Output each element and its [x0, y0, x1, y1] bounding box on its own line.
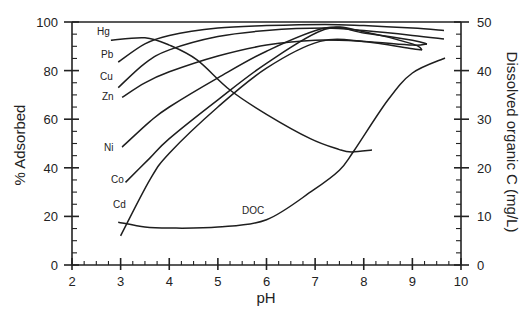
x-tick-label: 4	[166, 274, 173, 289]
y2-tick-label: 40	[477, 64, 491, 79]
curve-labels: HgPbCuZnNiCoCdDOC	[97, 26, 264, 216]
x-tick-label: 8	[360, 274, 367, 289]
curve-doc	[118, 58, 445, 228]
label-pb: Pb	[101, 49, 114, 60]
y-tick-label: 100	[36, 15, 58, 30]
label-cd: Cd	[113, 199, 126, 210]
x-tick-label: 10	[454, 274, 468, 289]
y2-tick-label: 50	[477, 15, 491, 30]
x-tick-label: 9	[409, 274, 416, 289]
adsorption-vs-ph-chart: 234567891002040608010001020304050 HgPbCu…	[0, 0, 532, 326]
label-ni: Ni	[104, 142, 113, 153]
y-tick-label: 60	[44, 112, 58, 127]
x-tick-label: 2	[68, 274, 75, 289]
y-tick-label: 40	[44, 161, 58, 176]
curve-zn	[122, 40, 427, 97]
y2-tick-label: 30	[477, 112, 491, 127]
axes	[64, 22, 469, 270]
label-doc: DOC	[242, 205, 264, 216]
label-zn: Zn	[102, 91, 114, 102]
x-tick-label: 5	[214, 274, 221, 289]
y2-tick-label: 20	[477, 161, 491, 176]
y-tick-label: 80	[44, 64, 58, 79]
x-tick-label: 6	[263, 274, 270, 289]
x-tick-label: 7	[312, 274, 319, 289]
y-tick-label: 0	[51, 258, 58, 273]
x-tick-label: 3	[117, 274, 124, 289]
y2-axis-title: Dissolved organic C (mg/L)	[504, 52, 521, 233]
curves	[111, 24, 445, 235]
curve-co	[126, 27, 428, 182]
x-axis-title: pH	[256, 289, 275, 306]
label-co: Co	[111, 174, 124, 185]
y2-tick-label: 0	[477, 258, 484, 273]
curve-hg	[111, 38, 372, 152]
y-tick-label: 20	[44, 209, 58, 224]
label-cu: Cu	[100, 71, 113, 82]
y-axis-title: % Adsorbed	[11, 105, 28, 186]
y2-tick-label: 10	[477, 209, 491, 224]
curve-cd	[121, 39, 423, 236]
label-hg: Hg	[97, 26, 110, 37]
